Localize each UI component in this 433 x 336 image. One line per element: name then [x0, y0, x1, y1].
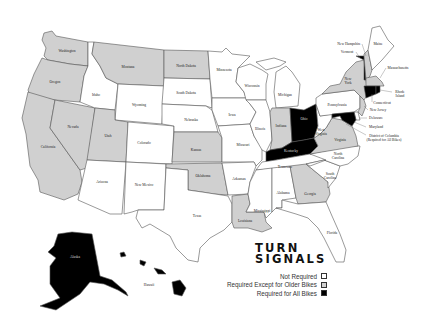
- state-hawaii-2[interactable]: [140, 260, 146, 266]
- state-hawaii-3[interactable]: [154, 268, 166, 274]
- label-colorado: Colorado: [137, 141, 151, 145]
- label-arkansas: Arkansas: [232, 177, 246, 181]
- label-south-dakota: South Dakota: [176, 91, 196, 95]
- label-montana: Montana: [122, 65, 135, 69]
- label-ohio: Ohio: [300, 117, 307, 121]
- label-indiana: Indiana: [276, 124, 287, 128]
- label-new-jersey: New Jersey: [370, 108, 387, 112]
- label-nevada: Nevada: [68, 125, 79, 129]
- label-oregon: Oregon: [50, 80, 61, 84]
- label-illinois: Illinois: [255, 127, 266, 131]
- label-wyoming: Wyoming: [132, 103, 146, 107]
- legend: Not Required Required Except for Older B…: [227, 272, 327, 298]
- state-ohio[interactable]: [290, 104, 318, 142]
- label-florida: Florida: [327, 231, 338, 235]
- label-alabama: Alabama: [277, 191, 290, 195]
- state-michigan-up[interactable]: [256, 58, 286, 70]
- map-title: TURN SIGNALS: [255, 243, 327, 265]
- label-tennessee: Tennessee: [278, 165, 293, 169]
- label-texas: Texas: [193, 214, 202, 218]
- label-kentucky: Kentucky: [284, 149, 298, 153]
- label-iowa: Iowa: [228, 113, 236, 117]
- label-arizona: Arizona: [96, 180, 108, 184]
- label-massachusetts: Massachusetts: [388, 66, 409, 70]
- legend-swatch-gray: [321, 282, 327, 288]
- legend-item-older-bikes: Required Except for Older Bikes: [227, 281, 327, 290]
- label-new-mexico: New Mexico: [135, 183, 154, 187]
- label-new-hampshire: New Hampshire: [337, 42, 361, 46]
- legend-label: Not Required: [280, 273, 317, 280]
- state-hawaii-4[interactable]: [172, 280, 186, 296]
- state-hawaii-1[interactable]: [120, 252, 126, 257]
- label-utah: Utah: [105, 134, 112, 138]
- label-new-york: NewYork: [344, 77, 351, 85]
- label-minnesota: Minnesota: [216, 68, 232, 72]
- us-map: Washington Oregon California Nevada Idah…: [0, 0, 433, 336]
- state-maine[interactable]: [368, 26, 394, 70]
- label-dc: District of Columbia(Required for All Bi…: [366, 134, 402, 142]
- label-missouri: Missouri: [237, 143, 250, 147]
- label-delaware: Delaware: [369, 116, 383, 120]
- legend-item-all-bikes: Required for All Bikes: [227, 289, 327, 298]
- label-georgia: Georgia: [304, 192, 316, 196]
- title-line-2: SIGNALS: [255, 254, 327, 265]
- label-vermont: Vermont: [341, 50, 353, 54]
- state-rhode-island[interactable]: [376, 86, 380, 94]
- label-alaska: Alaska: [70, 255, 80, 259]
- state-kansas[interactable]: [172, 132, 222, 162]
- label-mississippi: Mississippi: [254, 209, 270, 213]
- label-maine: Maine: [373, 42, 383, 46]
- label-california: California: [41, 145, 56, 149]
- legend-swatch-black: [321, 290, 327, 296]
- label-michigan: Michigan: [278, 93, 292, 97]
- label-wisconsin: Wisconsin: [244, 84, 259, 88]
- label-rhode-island: RhodeIsland: [395, 90, 405, 98]
- state-alaska[interactable]: [40, 232, 128, 310]
- state-massachusetts[interactable]: [366, 76, 384, 86]
- label-nebraska: Nebraska: [184, 118, 198, 122]
- legend-swatch-white: [321, 273, 327, 279]
- state-connecticut[interactable]: [364, 86, 376, 98]
- label-north-dakota: North Dakota: [176, 64, 196, 68]
- label-maryland: Maryland: [369, 125, 383, 129]
- label-pennsylvania: Pennsylvania: [327, 103, 347, 107]
- label-louisiana: Louisiana: [238, 219, 253, 223]
- legend-item-not-required: Not Required: [227, 272, 327, 281]
- legend-label: Required Except for Older Bikes: [227, 281, 317, 288]
- label-kansas: Kansas: [191, 148, 202, 152]
- callout-maryland: [354, 122, 366, 127]
- label-virginia: Virginia: [334, 138, 346, 142]
- legend-label: Required for All Bikes: [257, 290, 317, 297]
- label-idaho: Idaho: [92, 93, 100, 97]
- state-michigan[interactable]: [274, 66, 300, 108]
- label-oklahoma: Oklahoma: [196, 174, 211, 178]
- state-new-mexico[interactable]: [124, 162, 166, 214]
- label-washington: Washington: [58, 49, 75, 53]
- state-arizona[interactable]: [78, 160, 126, 214]
- label-hawaii: Hawaii: [144, 283, 154, 287]
- callout-massachusetts: [380, 68, 386, 78]
- label-connecticut: Connecticut: [373, 101, 390, 105]
- callout-rhode-island: [380, 90, 392, 92]
